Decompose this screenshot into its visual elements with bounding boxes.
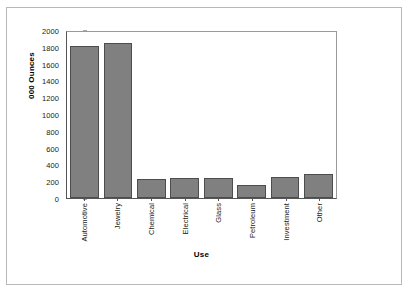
- bar-slot: [135, 32, 168, 198]
- y-tick-label: 1000: [42, 111, 59, 120]
- bar-glass[interactable]: [204, 178, 233, 198]
- y-tick-label: 1200: [42, 94, 59, 103]
- y-tick-label: 800: [46, 127, 59, 136]
- x-slot: Investment: [269, 201, 303, 249]
- bar-slot: [168, 32, 201, 198]
- x-tick-mark: [286, 198, 287, 201]
- plot-area: [66, 31, 337, 199]
- bar-chemical[interactable]: [137, 179, 166, 198]
- x-tick-label: Electrical: [180, 203, 189, 234]
- y-tick-label: 400: [46, 161, 59, 170]
- bar-slot: [202, 32, 235, 198]
- bar-jewelry[interactable]: [104, 43, 133, 198]
- x-tick-label: Glass: [214, 203, 223, 223]
- y-tick-label: 200: [46, 178, 59, 187]
- x-tick-mark: [117, 198, 118, 201]
- bar-other[interactable]: [304, 174, 333, 198]
- x-tick-label: Petroleum: [247, 203, 256, 238]
- bar-petroleum[interactable]: [237, 185, 266, 198]
- bar-chart: 000 Ounces 20001800160014001200100080060…: [0, 0, 412, 299]
- x-slot: Automotive: [67, 201, 101, 249]
- x-axis-tick-labels: AutomotiveJewelryChemicalElectricalGlass…: [66, 201, 337, 249]
- x-tick-label: Automotive: [79, 203, 88, 242]
- x-tick-label: Other: [315, 203, 324, 222]
- y-tick-label: 2000: [42, 27, 59, 36]
- bar-automotive[interactable]: [70, 46, 99, 198]
- x-slot: Glass: [202, 201, 236, 249]
- y-tick-label: 0: [55, 195, 59, 204]
- y-tick-label: 600: [46, 144, 59, 153]
- bar-electrical[interactable]: [170, 178, 199, 198]
- x-tick-mark: [84, 198, 85, 201]
- bar-slot: [302, 32, 335, 198]
- bar-slot: [101, 32, 134, 198]
- x-tick-label: Chemical: [147, 203, 156, 235]
- x-tick-mark: [185, 198, 186, 201]
- x-slot: Jewelry: [101, 201, 135, 249]
- y-tick-label: 1800: [42, 43, 59, 52]
- x-tick-mark: [319, 198, 320, 201]
- x-slot: Petroleum: [235, 201, 269, 249]
- x-axis-title: Use: [66, 250, 337, 259]
- x-tick-mark: [218, 198, 219, 201]
- x-tick-label: Jewelry: [113, 203, 122, 229]
- x-slot: Chemical: [134, 201, 168, 249]
- y-tick-label: 1400: [42, 77, 59, 86]
- x-slot: Electrical: [168, 201, 202, 249]
- y-axis-tick-labels: 2000180016001400120010008006004002000: [20, 31, 63, 199]
- x-slot: Other: [302, 201, 336, 249]
- bar-slot: [235, 32, 268, 198]
- x-tick-mark: [252, 198, 253, 201]
- bar-series: [67, 32, 336, 198]
- y-tick-label: 1600: [42, 60, 59, 69]
- x-tick-mark: [151, 198, 152, 201]
- bar-investment[interactable]: [271, 177, 300, 198]
- x-tick-label: Investment: [281, 203, 290, 241]
- bar-slot: [268, 32, 301, 198]
- bar-slot: [68, 32, 101, 198]
